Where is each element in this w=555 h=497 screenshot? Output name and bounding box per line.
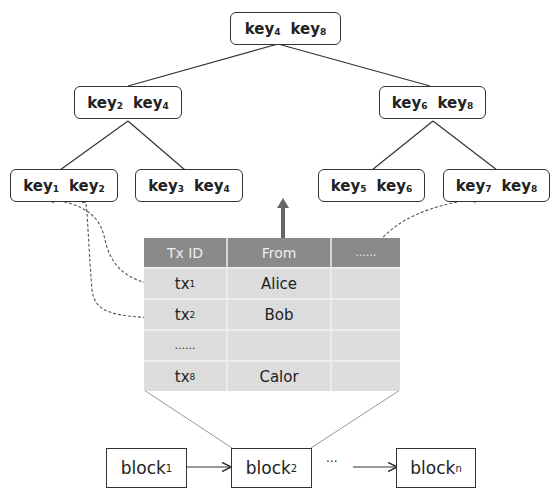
key-label: key4 [194, 177, 230, 195]
key-label: key2 [69, 177, 105, 195]
key-label: key6 [377, 177, 413, 195]
key-label: key5 [331, 177, 367, 195]
table-row: tx8 Calor [144, 360, 400, 391]
block-sub: 1 [166, 463, 172, 474]
tree-leaf-node: key1 key2 [10, 169, 118, 202]
transaction-table: Tx ID From ...... tx1 Alice tx2 Bob ....… [144, 238, 400, 391]
key-label: key8 [291, 20, 327, 38]
table-header: Tx ID From ...... [144, 238, 400, 267]
tree-right-node: key6 key8 [379, 86, 486, 119]
header-from: From [228, 238, 332, 267]
key-label: key6 [392, 94, 428, 112]
from-cell [228, 331, 332, 360]
table-row: tx2 Bob [144, 298, 400, 329]
block-label: block [410, 458, 455, 478]
tx-id-cell: tx1 [144, 269, 228, 298]
block-sub: n [455, 463, 461, 474]
from-cell: Bob [228, 300, 332, 329]
extra-cell [332, 331, 400, 360]
chain-ellipsis: ··· [326, 455, 337, 469]
tx-id-cell: tx8 [144, 362, 228, 391]
header-tx-id: Tx ID [144, 238, 228, 267]
extra-cell [332, 300, 400, 329]
tree-root-node: key4 key8 [230, 12, 341, 45]
tx-id-cell: ...... [144, 331, 228, 360]
tx-id-cell: tx2 [144, 300, 228, 329]
from-cell: Calor [228, 362, 332, 391]
block-n: blockn [396, 448, 476, 488]
from-cell: Alice [228, 269, 332, 298]
tree-leaf-node: key7 key8 [443, 169, 550, 202]
table-row: tx1 Alice [144, 267, 400, 298]
key-label: key4 [245, 20, 281, 38]
tree-leaf-node: key3 key4 [135, 169, 243, 202]
key-label: key1 [23, 177, 59, 195]
block-2: block2 [231, 448, 312, 488]
tree-left-node: key2 key4 [74, 86, 182, 119]
key-label: key8 [438, 94, 474, 112]
tree-leaf-node: key5 key6 [318, 169, 425, 202]
block-sub: 2 [291, 463, 297, 474]
table-row: ...... [144, 329, 400, 360]
block-1: block1 [106, 448, 187, 488]
extra-cell [332, 362, 400, 391]
key-label: key2 [87, 94, 123, 112]
header-more: ...... [332, 238, 400, 267]
block-label: block [246, 458, 291, 478]
extra-cell [332, 269, 400, 298]
key-label: key3 [148, 177, 184, 195]
block-label: block [121, 458, 166, 478]
key-label: key8 [502, 177, 538, 195]
key-label: key4 [133, 94, 169, 112]
key-label: key7 [456, 177, 492, 195]
